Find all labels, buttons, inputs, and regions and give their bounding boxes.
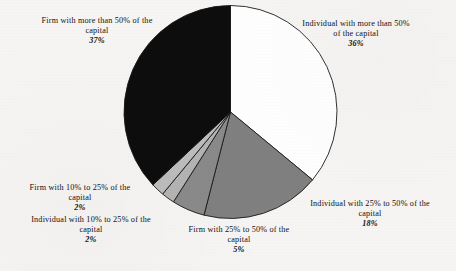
- pie-label-firm-10-to-25: Firm with 10% to 25% of the capital 2%: [2, 183, 158, 213]
- pie-label-firm-25-to-50-line2: capital: [164, 235, 314, 245]
- pie-label-firm-more-than-50-line2: capital: [4, 26, 190, 36]
- pie-label-firm-10-to-25-line2: capital: [2, 193, 158, 203]
- pie-value-firm-more-than-50: 37%: [4, 36, 190, 46]
- pie-label-firm-more-than-50-line1: Firm with more than 50% of the: [4, 16, 190, 26]
- pie-label-individual-10-to-25: Individual with 10% to 25% of the capita…: [2, 215, 180, 245]
- pie-label-firm-more-than-50: Firm with more than 50% of the capital 3…: [4, 16, 190, 46]
- pie-label-individual-more-than-50-line2: of the capital: [262, 29, 450, 39]
- pie-value-firm-10-to-25: 2%: [2, 203, 158, 213]
- pie-label-individual-25-to-50-line2: capital: [288, 209, 452, 219]
- pie-label-individual-more-than-50-line1: Individual with more than 50%: [262, 19, 450, 29]
- pie-label-individual-10-to-25-line2: capital: [2, 225, 180, 235]
- pie-chart-figure: Firm with more than 50% of the capital 3…: [0, 0, 456, 271]
- pie-label-firm-25-to-50: Firm with 25% to 50% of the capital 5%: [164, 225, 314, 255]
- pie-value-individual-more-than-50: 36%: [262, 39, 450, 49]
- pie-value-individual-10-to-25: 2%: [2, 235, 180, 245]
- pie-value-firm-25-to-50: 5%: [164, 245, 314, 255]
- pie-label-individual-10-to-25-line1: Individual with 10% to 25% of the: [2, 215, 180, 225]
- pie-label-individual-25-to-50-line1: Individual with 25% to 50% of the: [288, 199, 452, 209]
- pie-label-firm-10-to-25-line1: Firm with 10% to 25% of the: [2, 183, 158, 193]
- pie-label-individual-more-than-50: Individual with more than 50% of the cap…: [262, 19, 450, 49]
- pie-label-firm-25-to-50-line1: Firm with 25% to 50% of the: [164, 225, 314, 235]
